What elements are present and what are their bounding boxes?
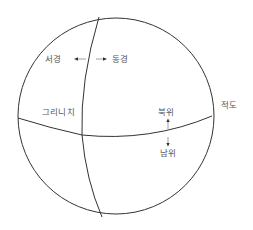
equator-label: 적도 [221, 101, 237, 110]
greenwich-label: 그리니치 [42, 108, 75, 117]
prime-meridian-line [82, 17, 102, 217]
east-arrow-icon [96, 57, 107, 61]
globe-diagram: 서경 동경 그리니치 북위 남위 적도 [0, 0, 253, 230]
east-longitude-label: 동경 [112, 55, 128, 64]
north-arrow-icon [166, 119, 169, 130]
west-longitude-label: 서경 [45, 55, 61, 64]
north-latitude-label: 북위 [158, 108, 174, 117]
south-arrow-icon [166, 137, 169, 147]
south-latitude-label: 남위 [160, 149, 176, 158]
west-arrow-icon [74, 57, 86, 61]
globe-svg [0, 0, 253, 230]
equator-line [18, 116, 212, 136]
